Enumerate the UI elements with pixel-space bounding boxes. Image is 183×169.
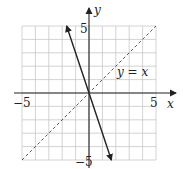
y-axis-label: y	[93, 3, 101, 17]
coordinate-plane: −5 5 x 5 −5 y y = x	[0, 0, 183, 169]
x-min-tick-label: −5	[13, 96, 31, 110]
y-min-tick-label: −5	[75, 155, 93, 169]
x-max-tick-label: 5	[150, 96, 158, 110]
x-axis-label: x	[167, 97, 174, 111]
dashed-line-label: y = x	[116, 65, 148, 79]
y-max-tick-label: 5	[80, 22, 88, 36]
